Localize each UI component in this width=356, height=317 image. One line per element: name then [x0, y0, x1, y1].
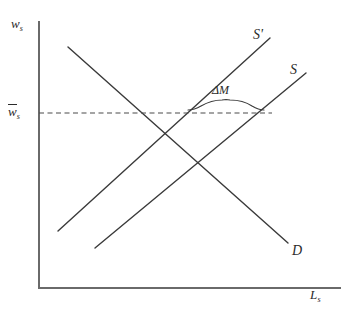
x-axis-label-subscript: s	[317, 295, 320, 304]
wage-floor-tick-label-subscript: s	[17, 112, 20, 121]
demand-curve-d	[68, 47, 288, 243]
wage-floor-tick-label-text: w	[8, 104, 17, 118]
wage-floor-tick-label: ws	[8, 104, 20, 118]
supply-curve-s-label: S	[290, 63, 297, 77]
y-axis-label-text: w	[11, 16, 20, 31]
delta-m-label: ΔM	[212, 84, 229, 96]
chart-plot-area	[0, 0, 356, 317]
labor-market-diagram: ws Ls ws S' S D ΔM	[0, 0, 356, 317]
supply-curve-s-prime-label: S'	[253, 28, 263, 42]
demand-curve-d-label: D	[292, 244, 302, 258]
delta-m-brace	[188, 100, 264, 111]
y-axis-label-subscript: s	[20, 24, 23, 33]
x-axis-label: Ls	[310, 288, 320, 301]
y-axis-label: ws	[11, 17, 23, 30]
